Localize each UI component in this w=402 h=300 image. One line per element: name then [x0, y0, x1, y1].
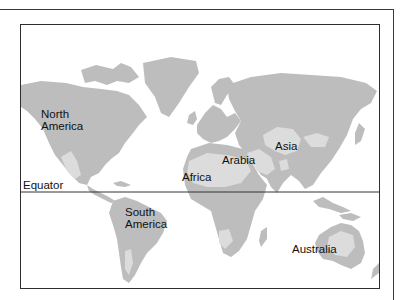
label-south-america-line2: America	[125, 218, 167, 230]
label-south-america: South America	[125, 206, 167, 230]
label-arabia: Arabia	[222, 154, 255, 166]
label-north-america-line2: America	[41, 120, 83, 132]
world-map: North America Equator South America Afri…	[20, 24, 380, 289]
europe	[197, 105, 241, 143]
outer-frame-top-line	[0, 9, 394, 10]
label-australia: Australia	[292, 243, 337, 255]
label-north-america-line1: North	[41, 108, 83, 120]
indonesia	[313, 197, 351, 213]
outer-frame-right-line	[393, 9, 394, 300]
label-africa: Africa	[182, 171, 211, 183]
central-america	[87, 185, 115, 203]
caribbean	[113, 181, 131, 187]
label-asia: Asia	[275, 140, 297, 152]
north-america	[21, 81, 147, 185]
new-zealand	[371, 263, 379, 279]
label-north-america: North America	[41, 108, 83, 132]
britain	[187, 111, 197, 125]
arctic-islands	[81, 63, 139, 85]
new-guinea	[339, 213, 361, 221]
greenland	[143, 57, 199, 117]
label-equator: Equator	[23, 179, 63, 191]
label-south-america-line1: South	[125, 206, 167, 218]
madagascar	[259, 227, 267, 247]
japan	[355, 123, 365, 145]
